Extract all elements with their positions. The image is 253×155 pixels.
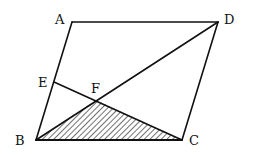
label-a: A xyxy=(54,12,65,27)
shaded-triangle-bfc xyxy=(36,100,182,140)
label-d: D xyxy=(224,12,234,27)
geometry-diagram: A D E F B C xyxy=(0,0,253,155)
label-f: F xyxy=(91,81,100,96)
segment-dc xyxy=(182,22,218,140)
label-e: E xyxy=(38,75,48,90)
label-c: C xyxy=(189,133,199,148)
label-b: B xyxy=(15,133,25,148)
